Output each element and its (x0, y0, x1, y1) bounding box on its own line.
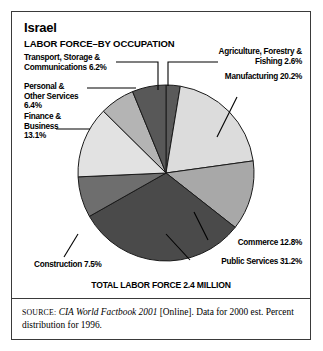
slice-label-finance-business: Finance & Business 13.1% (24, 112, 61, 141)
slice-label-commerce: Commerce 12.8% (192, 238, 302, 248)
slice-label-public-services: Public Services 31.2% (182, 257, 302, 267)
footer-divider (12, 298, 310, 299)
total-labor-force-caption: TOTAL LABOR FORCE 2.4 MILLION (12, 280, 310, 290)
leader-line-construction (64, 234, 78, 257)
source-prefix: SOURCE: (22, 308, 56, 317)
chart-subtitle: LABOR FORCE–BY OCCUPATION (24, 38, 175, 49)
slice-label-construction: Construction 7.5% (34, 260, 102, 270)
slice-label-agriculture: Agriculture, Forestry & Fishing 2.6% (182, 47, 302, 66)
slice-label-manufacturing: Manufacturing 20.2% (182, 72, 302, 82)
slice-label-transport: Transport, Storage & Communications 6.2% (24, 53, 107, 72)
pie-slice-manufacturing[interactable] (166, 86, 253, 173)
slice-label-personal-other-services: Personal & Other Services 6.4% (24, 82, 78, 111)
page-title: Israel (24, 20, 57, 35)
source-title: CIA World Factbook 2001 (59, 307, 158, 317)
chart-area: Israel LABOR FORCE–BY OCCUPATION Transpo… (12, 12, 310, 298)
source-note: SOURCE: CIA World Factbook 2001 [Online]… (22, 306, 300, 332)
figure-frame: Israel LABOR FORCE–BY OCCUPATION Transpo… (11, 11, 311, 340)
